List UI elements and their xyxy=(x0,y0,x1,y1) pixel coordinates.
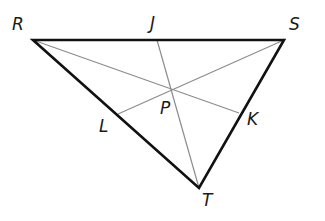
midpoint-label-k: K xyxy=(247,109,260,129)
median-sl xyxy=(118,40,284,114)
vertex-label-s: S xyxy=(289,14,300,34)
midpoint-label-j: J xyxy=(147,13,155,33)
vertex-label-t: T xyxy=(202,190,214,210)
centroid-label-p: P xyxy=(160,98,171,118)
median-rk xyxy=(33,40,239,113)
triangle-diagram: R S T J L K P xyxy=(0,0,325,221)
vertex-label-r: R xyxy=(12,14,24,34)
midpoint-label-l: L xyxy=(99,116,108,136)
